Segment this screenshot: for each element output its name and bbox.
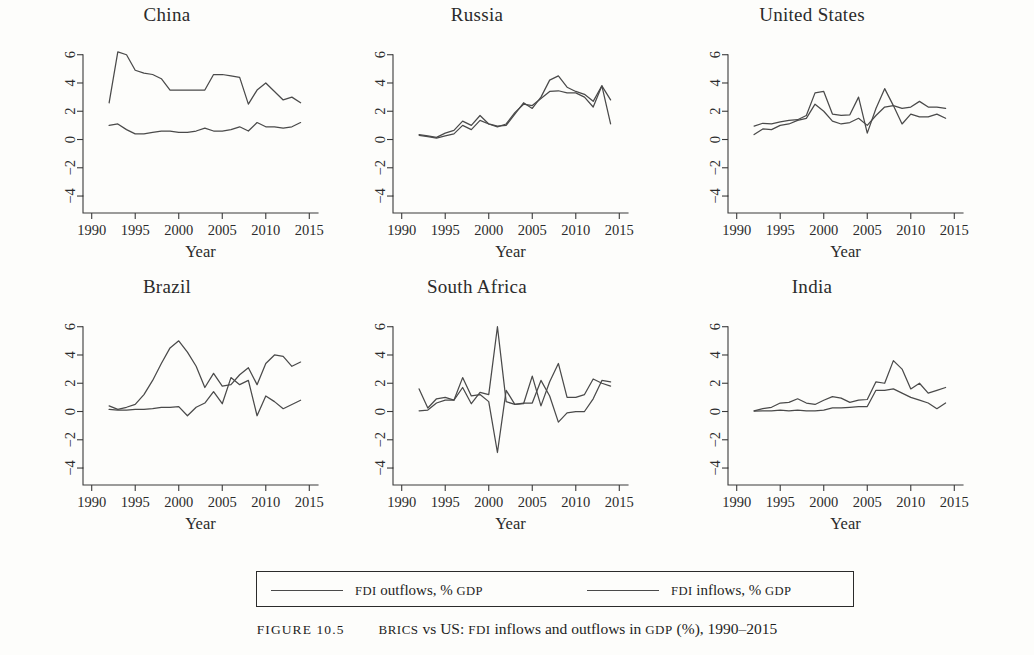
figure-caption-label: FIGURE 10.5: [257, 622, 345, 637]
y-tick-label: 4: [372, 351, 388, 359]
legend-box: FDI outflows, % GDP FDI inflows, % GDP: [256, 571, 854, 607]
y-tick-label: 2: [62, 108, 78, 115]
y-tick-label: −2: [707, 432, 723, 447]
x-tick-label: 2000: [164, 222, 193, 238]
x-tick-label: 2005: [853, 494, 882, 510]
legend-entry-outflows: FDI outflows, % GDP: [271, 572, 483, 608]
panel-plot: −4−20246199019952000200520102015Year: [645, 272, 979, 556]
y-tick-label: 0: [707, 408, 723, 415]
panel-brazil: Brazil−4−20246199019952000200520102015Ye…: [0, 272, 334, 556]
x-tick-label: 2010: [896, 494, 925, 510]
y-tick-label: −2: [372, 432, 388, 447]
y-tick-label: 4: [707, 79, 723, 87]
x-tick-label: 2000: [809, 222, 838, 238]
y-tick-label: −4: [707, 460, 723, 476]
y-tick-label: 4: [707, 351, 723, 359]
x-tick-label: 2015: [940, 222, 969, 238]
x-axis-title: Year: [495, 514, 526, 533]
y-tick-label: −2: [707, 160, 723, 175]
panel-plot: −4−20246199019952000200520102015Year: [310, 272, 644, 556]
series-line: [754, 104, 945, 134]
y-tick-label: 2: [707, 380, 723, 387]
y-tick-label: −4: [372, 460, 388, 476]
x-tick-label: 2015: [605, 494, 634, 510]
panel-india: India−4−20246199019952000200520102015Yea…: [645, 272, 979, 556]
series-line: [419, 378, 610, 453]
y-tick-label: 2: [372, 108, 388, 115]
panel-grid: China−4−20246199019952000200520102015Yea…: [0, 0, 1034, 568]
x-tick-label: 2015: [940, 494, 969, 510]
x-tick-label: 2015: [605, 222, 634, 238]
series-line: [109, 341, 300, 410]
figure-root: China−4−20246199019952000200520102015Yea…: [0, 0, 1034, 655]
y-tick-label: 6: [62, 51, 78, 58]
x-tick-label: 2010: [561, 222, 590, 238]
y-tick-label: −2: [62, 160, 78, 175]
y-tick-label: 6: [62, 323, 78, 330]
y-tick-label: −2: [372, 160, 388, 175]
y-tick-label: 4: [62, 351, 78, 359]
y-tick-label: 0: [707, 136, 723, 143]
y-tick-label: −2: [62, 432, 78, 447]
x-tick-label: 2010: [251, 222, 280, 238]
panel-plot: −4−20246199019952000200520102015Year: [0, 0, 334, 284]
x-tick-label: 1995: [766, 494, 795, 510]
x-tick-label: 1995: [121, 222, 150, 238]
panel-china: China−4−20246199019952000200520102015Yea…: [0, 0, 334, 284]
x-tick-label: 2000: [474, 222, 503, 238]
x-tick-label: 1990: [387, 222, 416, 238]
legend-label-inflows: FDI inflows, % GDP: [671, 582, 791, 599]
x-axis-title: Year: [185, 514, 216, 533]
panel-russia: Russia−4−20246199019952000200520102015Ye…: [310, 0, 644, 284]
y-tick-label: 0: [62, 136, 78, 143]
panel-plot: −4−20246199019952000200520102015Year: [310, 0, 644, 284]
y-tick-label: −4: [707, 188, 723, 204]
series-line: [419, 76, 610, 137]
x-tick-label: 2005: [208, 494, 237, 510]
x-tick-label: 1990: [722, 494, 751, 510]
y-tick-label: 0: [372, 136, 388, 143]
figure-caption: FIGURE 10.5BRICS vs US: FDI inflows and …: [0, 620, 1034, 638]
x-tick-label: 2010: [896, 222, 925, 238]
y-tick-label: 0: [372, 408, 388, 415]
panel-united-states: United States−4−202461990199520002005201…: [645, 0, 979, 284]
legend-entry-inflows: FDI inflows, % GDP: [587, 572, 791, 608]
y-tick-label: −4: [62, 460, 78, 476]
x-tick-label: 1990: [722, 222, 751, 238]
y-tick-label: 0: [62, 408, 78, 415]
y-tick-label: −4: [372, 188, 388, 204]
x-tick-label: 2010: [251, 494, 280, 510]
series-line: [109, 123, 300, 134]
series-line: [109, 378, 300, 416]
legend-line-inflows: [587, 590, 659, 591]
x-tick-label: 2005: [208, 222, 237, 238]
x-tick-label: 2000: [164, 494, 193, 510]
y-tick-label: 2: [62, 380, 78, 387]
x-tick-label: 1990: [77, 222, 106, 238]
figure-caption-text: BRICS vs US: FDI inflows and outflows in…: [379, 620, 778, 637]
legend-label-outflows: FDI outflows, % GDP: [355, 582, 483, 599]
x-tick-label: 2000: [809, 494, 838, 510]
y-tick-label: 6: [372, 51, 388, 58]
x-tick-label: 2005: [518, 222, 547, 238]
x-tick-label: 1990: [77, 494, 106, 510]
x-tick-label: 2000: [474, 494, 503, 510]
x-axis-title: Year: [185, 242, 216, 261]
x-tick-label: 1995: [766, 222, 795, 238]
y-tick-label: 6: [707, 323, 723, 330]
panel-plot: −4−20246199019952000200520102015Year: [0, 272, 334, 556]
x-axis-title: Year: [495, 242, 526, 261]
x-tick-label: 1995: [431, 222, 460, 238]
series-line: [754, 361, 945, 411]
series-line: [109, 52, 300, 104]
x-tick-label: 2010: [561, 494, 590, 510]
panel-plot: −4−20246199019952000200520102015Year: [645, 0, 979, 284]
y-tick-label: 2: [707, 108, 723, 115]
x-tick-label: 2005: [853, 222, 882, 238]
y-tick-label: 4: [372, 79, 388, 87]
x-tick-label: 1995: [121, 494, 150, 510]
x-tick-label: 1995: [431, 494, 460, 510]
y-tick-label: 6: [707, 51, 723, 58]
y-tick-label: 6: [372, 323, 388, 330]
legend-line-outflows: [271, 590, 343, 591]
